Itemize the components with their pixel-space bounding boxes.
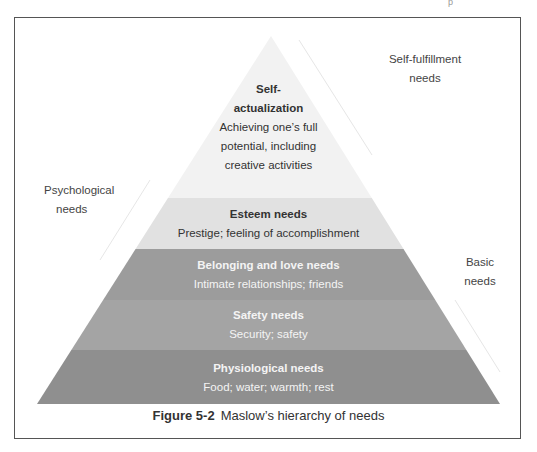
level-belonging: Belonging and love needs Intimate relati…: [0, 256, 537, 294]
level-esteem: Esteem needs Prestige; feeling of accomp…: [0, 205, 537, 243]
level-physiological: Physiological needs Food; water; warmth;…: [0, 359, 537, 397]
level-safety: Safety needs Security; safety: [0, 306, 537, 344]
figure-title: Maslow’s hierarchy of needs: [221, 408, 385, 423]
level-self-actualization: Self- actualization Achieving one’s full…: [0, 80, 537, 175]
figure-caption: Figure 5-2Maslow’s hierarchy of needs: [0, 408, 537, 423]
figure-number: Figure 5-2: [153, 408, 215, 423]
